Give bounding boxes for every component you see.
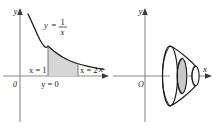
curve-label-denominator: x bbox=[60, 27, 65, 37]
svg-text:=: = bbox=[52, 20, 57, 30]
y-axis-label: y bbox=[138, 6, 143, 16]
label-x-equals-1: x = 1 bbox=[29, 65, 47, 75]
label-y-equals-0: y = 0 bbox=[41, 79, 59, 89]
y-axis bbox=[142, 8, 148, 122]
label-x-equals-2: x = 2 bbox=[80, 65, 98, 75]
curve-label-lhs: y bbox=[43, 20, 48, 30]
curve-label-equals: = bbox=[52, 20, 57, 30]
left-panel-region-plot: y x y = 1 bbox=[0, 0, 110, 131]
right-panel-solid-plot: y x O bbox=[110, 0, 219, 131]
svg-text:y: y bbox=[43, 20, 48, 30]
curve-label-numerator: 1 bbox=[60, 17, 64, 27]
figure-container: y x y = 1 bbox=[0, 0, 219, 131]
origin-label: O bbox=[138, 80, 144, 89]
curve-equation-label: y = 1 x bbox=[43, 17, 67, 37]
y-axis-label: y bbox=[13, 6, 18, 16]
y-axis bbox=[17, 8, 23, 122]
x-axis-label: x bbox=[202, 64, 207, 74]
origin-label: 0 bbox=[13, 80, 17, 89]
